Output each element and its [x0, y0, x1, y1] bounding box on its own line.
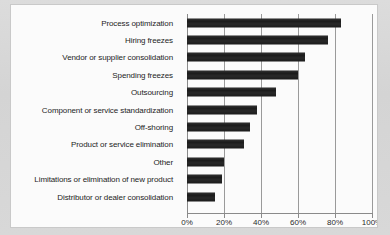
bar — [187, 105, 257, 114]
category-label: Distributor or dealer consolidation — [57, 192, 173, 201]
category-label: Component or service standardization — [42, 105, 173, 114]
x-tick-label: 0% — [181, 218, 193, 227]
category-label: Off-shoring — [135, 123, 173, 132]
x-tick-label: 40% — [253, 218, 269, 227]
bar-row: Outsourcing — [11, 84, 377, 101]
bar-row: Limitations or elimination of new produc… — [11, 171, 377, 188]
bar-row: Off-shoring — [11, 118, 377, 135]
category-label: Vendor or supplier consolidation — [62, 53, 173, 62]
x-tick-label: 20% — [216, 218, 232, 227]
bar — [187, 18, 341, 27]
bar — [187, 88, 276, 97]
x-tick-label: 80% — [327, 218, 343, 227]
bar-row: Product or service elimination — [11, 136, 377, 153]
bar-row: Hiring freezes — [11, 31, 377, 48]
x-tick-label: 100% — [362, 218, 378, 227]
bar — [187, 192, 215, 201]
category-label: Limitations or elimination of new produc… — [34, 175, 173, 184]
category-label: Outsourcing — [131, 88, 173, 97]
x-tick-label: 60% — [290, 218, 306, 227]
bar — [187, 70, 298, 79]
x-axis-baseline — [187, 213, 373, 214]
bar — [187, 53, 305, 62]
category-label: Hiring freezes — [125, 36, 173, 45]
bar-row: Distributor or dealer consolidation — [11, 188, 377, 205]
bar-row: Other — [11, 153, 377, 170]
chart-panel: 0%20%40%60%80%100% Process optimizationH… — [10, 4, 378, 228]
category-label: Other — [153, 157, 173, 166]
page-background: 0%20%40%60%80%100% Process optimizationH… — [0, 0, 390, 235]
category-label: Spending freezes — [112, 70, 173, 79]
bar-row: Component or service standardization — [11, 101, 377, 118]
bar-row: Vendor or supplier consolidation — [11, 49, 377, 66]
bar — [187, 123, 250, 132]
bar-row: Process optimization — [11, 14, 377, 31]
bar — [187, 36, 328, 45]
category-label: Product or service elimination — [71, 140, 173, 149]
bar-chart-plot-area: 0%20%40%60%80%100% Process optimizationH… — [11, 5, 377, 227]
bar-row: Spending freezes — [11, 66, 377, 83]
bar — [187, 140, 244, 149]
bar — [187, 175, 222, 184]
category-label: Process optimization — [101, 18, 173, 27]
bar — [187, 157, 224, 166]
